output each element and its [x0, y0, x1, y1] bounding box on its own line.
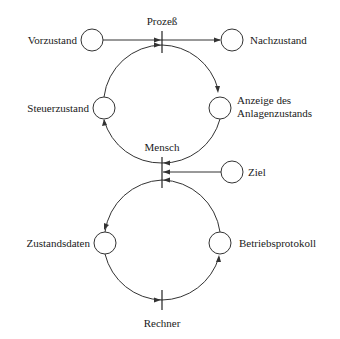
arrowhead-icon [163, 178, 170, 183]
label-steuerzustand: Steuerzustand [27, 102, 89, 114]
arc-betriebsprotokoll-mensch [162, 180, 220, 232]
label-betriebsprotokoll: Betriebsprotokoll [239, 237, 316, 249]
petri-net-diagram: Prozeß Mensch Rechner Vorzustand Nachzus… [0, 0, 340, 339]
arc-zustandsdaten-rechner [105, 254, 162, 300]
arrowhead-icon [214, 38, 221, 43]
place-anzeige [209, 97, 231, 119]
arrowhead-icon [154, 298, 161, 303]
arrowhead-icon [104, 223, 109, 230]
arc-rechner-betriebsprotokoll [162, 257, 219, 300]
arrowhead-icon [102, 119, 107, 126]
straight-arcs [103, 38, 221, 175]
place-zustandsdaten [94, 232, 116, 254]
label-zustandsdaten: Zustandsdaten [26, 237, 90, 249]
place-betriebsprotokoll [209, 232, 231, 254]
label-anzeige-line1: Anzeige des [237, 94, 291, 106]
lower-cycle [104, 178, 221, 303]
arrowhead-icon [215, 86, 220, 93]
arrowhead-icon [216, 255, 221, 262]
place-steuerzustand [93, 97, 115, 119]
label-anzeige-line2: Anlagenzustands [237, 107, 312, 119]
label-ziel: Ziel [248, 166, 266, 178]
label-rechner: Rechner [144, 317, 181, 329]
label-mensch: Mensch [145, 141, 180, 153]
place-nachzustand [221, 29, 243, 51]
place-vorzustand [81, 29, 103, 51]
place-ziel [221, 161, 243, 183]
arrowhead-icon [163, 161, 170, 166]
label-prozess: Prozeß [147, 15, 178, 27]
arrowhead-icon [154, 43, 161, 48]
arc-prozess-anzeige [162, 45, 218, 89]
label-vorzustand: Vorzustand [28, 34, 78, 46]
label-nachzustand: Nachzustand [250, 34, 307, 46]
arc-steuer-prozess [104, 45, 162, 97]
arrowhead-icon [154, 38, 161, 43]
arc-mensch-zustandsdaten [105, 180, 162, 232]
arrowhead-icon [163, 170, 170, 175]
